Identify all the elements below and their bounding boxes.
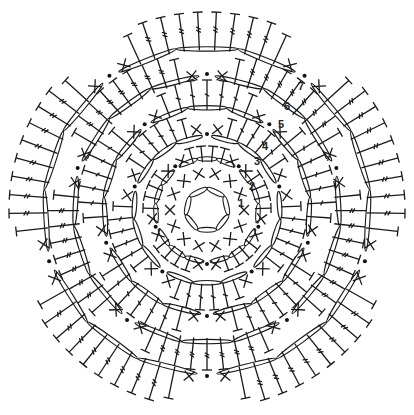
slip-stitch-icon — [277, 185, 281, 189]
stitch-bar-icon — [179, 32, 184, 34]
stitch-top-bar-icon — [153, 245, 159, 253]
slip-stitch-icon — [205, 72, 209, 76]
hdc-stitch-icon — [227, 119, 232, 138]
stitch-bar-icon — [67, 253, 68, 258]
stitch-top-bar-icon — [46, 87, 52, 95]
single-crochet-icon — [212, 168, 219, 180]
stitch-bar-icon — [374, 144, 375, 149]
single-crochet-icon — [213, 124, 222, 135]
stitch-top-bar-icon — [9, 190, 10, 200]
slip-stitch-icon — [205, 132, 209, 136]
slip-stitch-icon — [256, 225, 260, 229]
stitch-top-bar-icon — [230, 13, 240, 14]
stitch-bar-icon — [58, 312, 59, 317]
round-label-5: 5 — [278, 118, 284, 130]
stitch-bar-icon — [258, 384, 263, 385]
stitch-top-bar-icon — [330, 213, 331, 223]
stitch-top-bar-icon — [110, 383, 119, 388]
stitch-top-bar-icon — [257, 170, 263, 178]
hdc-stitch-icon — [168, 367, 174, 398]
stitch-bar-icon — [60, 310, 61, 315]
single-crochet-icon — [319, 79, 320, 93]
round-label-1: 1 — [238, 197, 244, 209]
stitch-bar-icon — [219, 352, 224, 354]
stitch-bar-icon — [162, 35, 167, 36]
stitch-bar-icon — [234, 350, 239, 352]
stitch-top-bar-icon — [209, 309, 219, 310]
stitch-bar-icon — [235, 353, 240, 355]
stitch-top-bar-icon — [16, 227, 17, 237]
stitch-top-bar-icon — [337, 128, 342, 137]
slip-stitch-icon — [237, 164, 241, 168]
stitch-bar-icon — [247, 317, 252, 318]
stitch-bar-icon — [126, 240, 127, 245]
hdc-stitch-icon — [366, 228, 398, 232]
slip-stitch-icon — [285, 318, 289, 322]
chain-stitch-icon — [189, 186, 208, 199]
stitch-bar-icon — [122, 228, 123, 233]
stitch-bar-icon — [70, 252, 71, 257]
hdc-stitch-icon — [65, 80, 89, 102]
hdc-stitch-icon — [233, 279, 240, 298]
stitch-bar-icon — [70, 324, 71, 329]
slip-stitch-icon — [143, 122, 147, 126]
stitch-top-bar-icon — [309, 272, 314, 280]
stitch-top-bar-icon — [195, 309, 205, 310]
chain-stitch-icon — [131, 191, 137, 219]
hdc-stitch-icon — [40, 289, 68, 305]
round-label-2: 2 — [249, 180, 255, 192]
stitch-bar-icon — [108, 102, 113, 103]
slip-stitch-icon — [205, 374, 209, 378]
stitch-top-bar-icon — [278, 264, 284, 272]
single-crochet-icon — [291, 309, 305, 310]
stitch-bar-icon — [319, 186, 321, 191]
stitch-top-bar-icon — [256, 122, 264, 127]
round-label-6: 6 — [284, 100, 290, 112]
stitch-top-bar-icon — [327, 361, 335, 367]
chain-stitch-icon — [222, 196, 231, 216]
stitch-bar-icon — [352, 98, 353, 103]
slip-stitch-icon — [133, 185, 137, 189]
stitch-top-bar-icon — [397, 227, 398, 237]
stitch-top-bar-icon — [109, 78, 117, 84]
round-label-7: 7 — [298, 80, 304, 92]
stitch-bar-icon — [304, 98, 306, 103]
stitch-bar-icon — [382, 159, 383, 164]
chain-stitch-icon — [184, 213, 200, 231]
stitch-bar-icon — [82, 336, 84, 341]
slip-stitch-icon — [363, 259, 367, 263]
chain-stitch-icon — [259, 158, 278, 184]
stitch-top-bar-icon — [196, 146, 206, 147]
chain-stitch-icon — [152, 141, 177, 161]
hdc-stitch-icon — [133, 256, 149, 268]
stitch-bar-icon — [162, 32, 167, 33]
stitch-bar-icon — [65, 238, 66, 243]
single-crochet-icon — [122, 191, 134, 199]
slip-stitch-icon — [334, 166, 338, 170]
slip-stitch-icon — [76, 166, 80, 170]
slip-stitch-icon — [104, 241, 108, 245]
stitch-bar-icon — [140, 151, 145, 153]
stitch-top-bar-icon — [79, 361, 87, 367]
round-label-4: 4 — [262, 140, 269, 152]
stitch-bar-icon — [350, 100, 351, 105]
stitch-bar-icon — [377, 143, 378, 148]
single-crochet-icon — [209, 242, 221, 249]
stitch-bar-icon — [223, 294, 228, 295]
stitch-bar-icon — [248, 347, 253, 348]
hdc-stitch-icon — [113, 206, 133, 207]
stitch-bar-icon — [379, 160, 380, 165]
stitch-bar-icon — [190, 95, 195, 97]
stitch-bar-icon — [159, 73, 164, 74]
hdc-stitch-icon — [128, 35, 141, 64]
hdc-stitch-icon — [102, 263, 122, 276]
single-crochet-icon — [193, 170, 205, 177]
chain-stitch-icon — [290, 273, 326, 315]
hdc-stitch-icon — [92, 295, 111, 312]
hdc-stitch-icon — [265, 256, 281, 268]
stitch-top-bar-icon — [42, 319, 48, 327]
slip-stitch-icon — [107, 74, 111, 78]
slip-stitch-icon — [160, 269, 164, 273]
stitch-bar-icon — [148, 143, 153, 144]
single-crochet-icon — [223, 238, 237, 240]
